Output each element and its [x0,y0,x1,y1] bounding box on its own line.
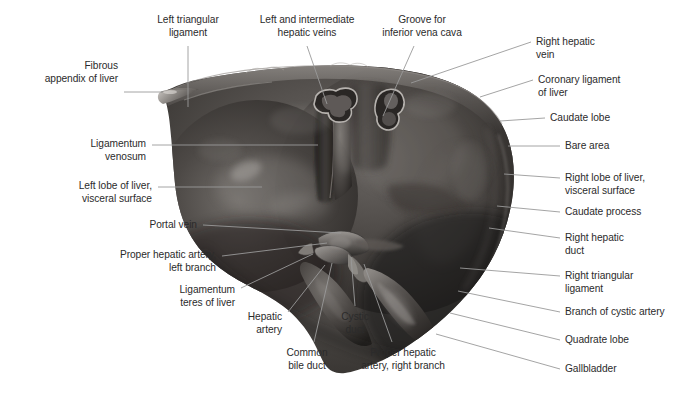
label-branch-of-cystic-artery: Branch of cystic artery [565,306,688,319]
label-left-lobe-of-liver-visceral-surface: Left lobe of liver, visceral surface [0,180,152,205]
label-right-hepatic-vein: Right hepatic vein [536,36,688,61]
label-portal-vein: Portal vein [0,219,197,232]
label-coronary-ligament-of-liver: Coronary ligament of liver [538,74,688,99]
label-ligamentum-teres-of-liver: Ligamentum teres of liver [0,284,235,309]
label-gallbladder: Gallbladder [565,363,688,376]
label-cystic-duct: Cystic duct [235,311,475,336]
label-ligamentum-venosum: Ligamentum venosum [0,138,146,163]
anatomy-figure: Fibrous appendix of liverLeft triangular… [0,0,688,405]
label-layer: Fibrous appendix of liverLeft triangular… [0,0,688,405]
label-quadrate-lobe: Quadrate lobe [565,334,688,347]
label-proper-hepatic-artery-left-branch: Proper hepatic artery, left branch [0,249,216,274]
label-bare-area: Bare area [565,140,688,153]
label-fibrous-appendix-of-liver: Fibrous appendix of liver [0,60,118,85]
label-groove-for-inferior-vena-cava: Groove for inferior vena cava [302,14,542,39]
label-right-triangular-ligament: Right triangular ligament [565,270,688,295]
label-caudate-process: Caudate process [565,206,688,219]
label-right-hepatic-duct: Right hepatic duct [565,232,688,257]
label-right-lobe-of-liver-visceral-surface: Right lobe of liver, visceral surface [565,172,688,197]
label-caudate-lobe: Caudate lobe [550,112,688,125]
label-proper-hepatic-artery-right-branch: Proper hepatic artery, right branch [283,347,523,372]
